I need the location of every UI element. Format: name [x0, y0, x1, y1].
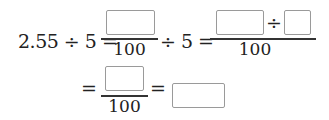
fraction3-numerator-input[interactable]: [105, 66, 144, 91]
fraction2-numerator-input-b[interactable]: [284, 10, 311, 35]
fraction2-numerator-input-a[interactable]: [216, 10, 264, 35]
fraction1-numerator-input[interactable]: [106, 10, 155, 35]
equals-sign: =: [81, 79, 97, 98]
fraction2-divide-operator: ÷: [266, 13, 282, 32]
fraction3-denominator: 100: [101, 98, 148, 115]
fraction2-denominator: 100: [210, 41, 300, 58]
divide-by-five: ÷ 5 =: [160, 32, 214, 51]
answer-input[interactable]: [172, 83, 225, 108]
fraction1-denominator: 100: [101, 41, 158, 58]
equals-sign: =: [150, 79, 166, 98]
